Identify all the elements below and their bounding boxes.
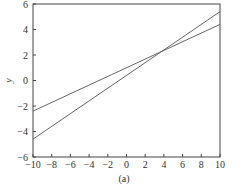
- y-axis-label: y: [3, 78, 14, 84]
- x-tick-label: 4: [161, 159, 166, 170]
- x-tick-label: 2: [143, 159, 148, 170]
- series-line-1: [33, 24, 220, 111]
- x-tick-label: 10: [215, 159, 225, 170]
- y-tick-label: 6: [23, 0, 28, 10]
- y-tick-label: 2: [23, 50, 28, 61]
- y-tick-label: 4: [23, 24, 28, 35]
- x-axis-label: x: [122, 168, 128, 170]
- x-tick-label: −2: [102, 159, 113, 170]
- x-tick-label: 8: [199, 159, 204, 170]
- x-tick-label: −6: [65, 159, 76, 170]
- plot-frame: [33, 4, 220, 157]
- y-tick-label: −6: [17, 152, 28, 163]
- y-tick-label: −2: [17, 101, 28, 112]
- x-tick-label: 6: [180, 159, 185, 170]
- chart: −10−8−6−4−20246810−6−4−20246xy: [0, 0, 248, 170]
- y-tick-label: 0: [23, 75, 28, 86]
- series-line-2: [33, 12, 220, 139]
- figure-caption: (a): [0, 173, 248, 184]
- x-tick-label: −8: [46, 159, 57, 170]
- y-tick-label: −4: [17, 126, 28, 137]
- x-tick-label: −4: [84, 159, 95, 170]
